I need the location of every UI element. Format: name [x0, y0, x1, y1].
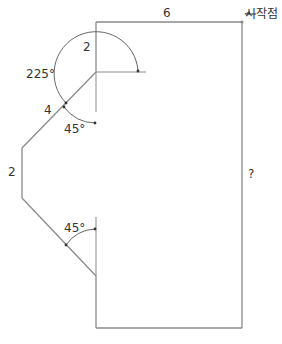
lower-angle-label: 45° — [64, 222, 85, 234]
inner-vertical-length-label: 2 — [83, 41, 91, 53]
lower-diagonal — [22, 198, 96, 276]
right-length-label: ? — [248, 168, 254, 180]
turn-angle-label: 225° — [26, 68, 55, 80]
upper-diagonal — [22, 72, 96, 148]
turtle-path-diagram: 6 시작점 ? 2 225° 4 45° 2 45° — [0, 0, 282, 344]
upper-angle-label: 45° — [64, 123, 85, 135]
reference-lines — [96, 72, 146, 276]
left-length-label: 2 — [8, 166, 16, 178]
diagram-drawing — [0, 0, 282, 344]
outline-path — [22, 22, 242, 328]
start-point-label: 시작점 — [245, 8, 278, 20]
upper-angle-arc — [64, 107, 95, 123]
diagonal-length-label: 4 — [44, 104, 52, 116]
top-length-label: 6 — [163, 7, 171, 19]
